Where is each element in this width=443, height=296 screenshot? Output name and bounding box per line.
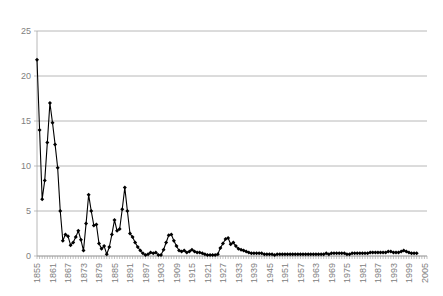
x-tick-label: 1867 bbox=[63, 263, 73, 283]
x-tick-label: 1999 bbox=[404, 263, 414, 283]
x-tick-label: 1915 bbox=[187, 263, 197, 283]
x-tick-label: 1891 bbox=[125, 263, 135, 283]
y-tick-label: 15 bbox=[21, 116, 31, 126]
y-tick-label: 10 bbox=[21, 161, 31, 171]
x-tick-label: 1855 bbox=[32, 263, 42, 283]
x-tick-label: 1873 bbox=[79, 263, 89, 283]
x-tick-label: 2005 bbox=[420, 263, 430, 283]
x-tick-label: 1951 bbox=[280, 263, 290, 283]
y-tick-label: 5 bbox=[26, 206, 31, 216]
x-tick-label: 1921 bbox=[203, 263, 213, 283]
y-tick-label: 20 bbox=[21, 71, 31, 81]
x-tick-label: 1987 bbox=[373, 263, 383, 283]
chart-canvas: 0510152025 18551861186718731879188518911… bbox=[0, 0, 443, 296]
x-tick-label: 1933 bbox=[234, 263, 244, 283]
x-tick-label: 1945 bbox=[265, 263, 275, 283]
y-tick-label: 25 bbox=[21, 26, 31, 36]
x-tick-label: 1897 bbox=[141, 263, 151, 283]
x-tick-label: 1909 bbox=[172, 263, 182, 283]
line-chart: 0510152025 18551861186718731879188518911… bbox=[0, 0, 443, 296]
y-tick-label: 0 bbox=[26, 251, 31, 261]
x-tick-label: 1963 bbox=[311, 263, 321, 283]
x-tick-label: 1879 bbox=[94, 263, 104, 283]
x-tick-label: 1981 bbox=[358, 263, 368, 283]
x-tick-label: 1939 bbox=[249, 263, 259, 283]
x-tick-label: 1885 bbox=[110, 263, 120, 283]
x-tick-label: 1861 bbox=[48, 263, 58, 283]
x-tick-label: 1927 bbox=[218, 263, 228, 283]
x-tick-label: 1969 bbox=[327, 263, 337, 283]
x-tick-label: 1903 bbox=[156, 263, 166, 283]
x-tick-label: 1993 bbox=[389, 263, 399, 283]
x-tick-label: 1957 bbox=[296, 263, 306, 283]
chart-background bbox=[0, 0, 443, 296]
x-tick-label: 1975 bbox=[342, 263, 352, 283]
